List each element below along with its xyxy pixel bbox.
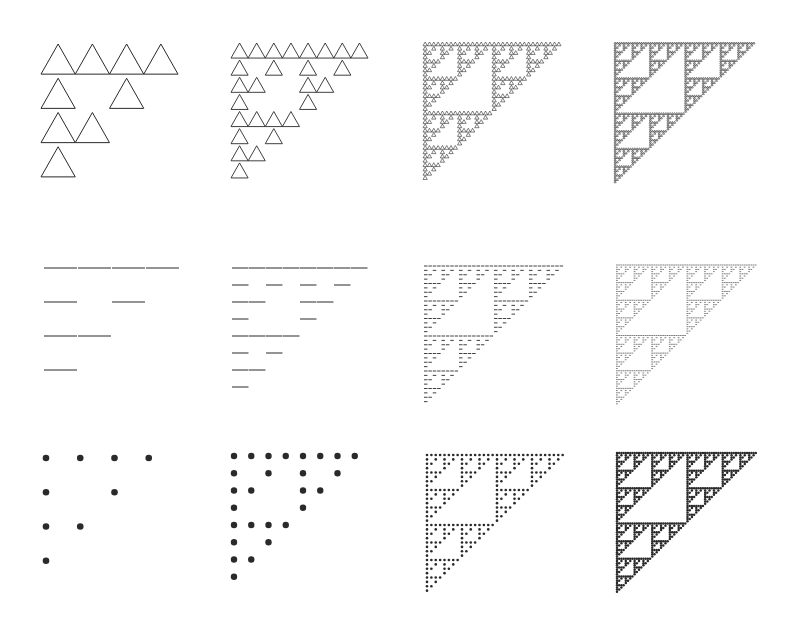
sierpinski-triangle-graphic [423,42,563,182]
sierpinski-dot-graphic [46,458,185,597]
panel-dot-n32 [427,455,567,595]
panel-triangle-n8 [231,43,368,180]
sierpinski-dot-graphic [427,455,569,597]
panel-segment-n64 [616,265,757,406]
panel-dot-n4 [46,458,183,595]
sierpinski-dot-graphic [234,456,374,596]
sierpinski-segment-graphic [424,266,566,408]
panel-segment-n4 [44,268,180,404]
sierpinski-triangle-graphic [614,42,757,185]
panel-segment-n8 [232,268,368,404]
panel-triangle-n32 [423,42,561,180]
sierpinski-segment-graphic [232,268,370,406]
sierpinski-triangle-graphic [231,43,370,182]
sierpinski-segment-graphic [616,265,759,408]
sierpinski-triangle-graphic [41,44,180,183]
panel-dot-n64 [617,453,758,594]
panel-dot-n8 [234,456,372,594]
panel-triangle-n64 [614,42,755,183]
sierpinski-segment-graphic [44,268,182,406]
sierpinski-dot-graphic [617,453,760,596]
panel-triangle-n4 [41,44,178,181]
panel-segment-n32 [424,266,564,406]
